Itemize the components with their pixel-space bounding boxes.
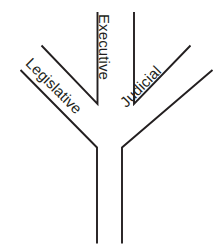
branch-label-executive: Executive (97, 14, 112, 80)
branches-of-government-diagram: Executive Legislative Judicial (0, 0, 224, 252)
